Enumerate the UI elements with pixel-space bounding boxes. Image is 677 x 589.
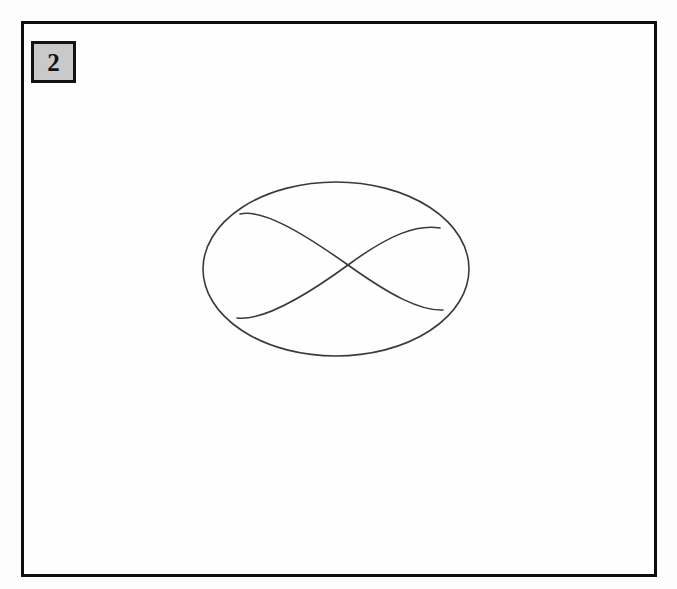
- figure-frame: [21, 21, 657, 577]
- figure-page: 2: [0, 0, 677, 589]
- figure-number-box: 2: [31, 41, 76, 83]
- figure-number-label: 2: [47, 50, 60, 75]
